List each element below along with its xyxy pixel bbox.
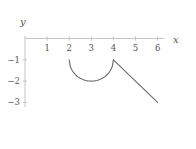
x-tick-label: 5 bbox=[133, 43, 138, 53]
x-tick-label: 1 bbox=[44, 43, 49, 53]
y-tick-label: −1 bbox=[7, 55, 20, 65]
plot-series bbox=[69, 60, 157, 103]
x-tick-label: 4 bbox=[111, 43, 116, 53]
y-tick-label: −3 bbox=[7, 97, 20, 107]
y-ticks: −1−2−3 bbox=[7, 55, 27, 108]
x-tick-label: 2 bbox=[66, 43, 71, 53]
y-tick-label: −2 bbox=[7, 76, 20, 86]
x-tick-label: 6 bbox=[155, 43, 160, 53]
function-plot: 123456 −1−2−3 x y bbox=[0, 0, 196, 149]
series-semicircle bbox=[69, 60, 113, 81]
y-axis-label: y bbox=[19, 16, 26, 27]
x-tick-label: 3 bbox=[89, 43, 94, 53]
series-line bbox=[113, 60, 157, 103]
x-axis-label: x bbox=[173, 34, 179, 45]
